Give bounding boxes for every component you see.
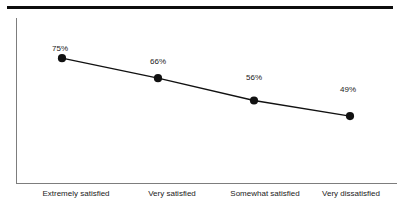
- value-label-3: 49%: [340, 85, 356, 94]
- series-marker-0: [58, 54, 66, 62]
- series-line: [62, 58, 350, 116]
- chart-figure: 75% 66% 56% 49% Extremely satisfied Very…: [0, 0, 409, 221]
- series-marker-3: [346, 112, 354, 120]
- series-marker-2: [250, 96, 258, 104]
- value-label-2: 56%: [246, 73, 262, 82]
- value-label-0: 75%: [52, 44, 68, 53]
- series-marker-1: [154, 74, 162, 82]
- value-label-1: 66%: [150, 57, 166, 66]
- x-tick-label-1: Very satisfied: [148, 189, 196, 198]
- x-tick-label-2: Somewhat satisfied: [230, 189, 299, 198]
- series-marker-group: [58, 54, 354, 120]
- x-tick-label-3: Very dissatisfied: [322, 189, 380, 198]
- x-tick-label-0: Extremely satisfied: [42, 189, 109, 198]
- line-chart-plot: [0, 0, 409, 221]
